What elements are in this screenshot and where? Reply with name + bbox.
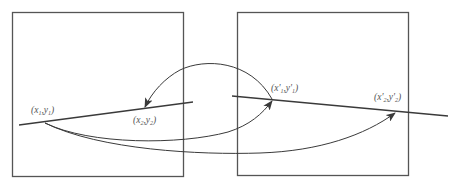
arrow-p1prime-to-p2	[145, 64, 272, 107]
label-p2: (x2,y2)	[133, 116, 156, 126]
diagram-canvas: (x1,y1) (x2,y2) (x'1,y'1) (x'2,y'2)	[0, 0, 456, 188]
arrow-p1-to-p2prime	[45, 113, 395, 153]
label-p1-prime: (x'1,y'1)	[271, 84, 298, 94]
label-p2-prime: (x'2,y'2)	[374, 93, 401, 103]
left-image-frame	[13, 13, 184, 177]
label-p1: (x1,y1)	[31, 106, 54, 116]
right-line	[232, 96, 448, 116]
